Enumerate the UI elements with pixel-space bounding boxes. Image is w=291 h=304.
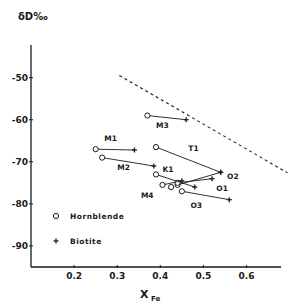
y-tick-label: -90 [12,241,28,251]
x-tick-label: 0.3 [109,271,125,281]
y-tick-label: -60 [12,115,28,125]
point-label: M1 [104,134,117,143]
hornblende-point [153,144,158,149]
reference-line-group [119,76,287,173]
legend-label: Biotite [70,237,102,246]
x-axis-label: X [140,288,149,301]
pair-unlabeled [168,184,173,189]
point-label: O1 [216,184,228,193]
point-label: M4 [141,191,154,200]
hornblende-point [160,182,165,187]
hornblende-point [93,147,98,152]
pair-m1: M1 [93,134,137,153]
tie-line [96,149,135,150]
tie-line [147,116,186,120]
x-tick-label: 0.6 [239,271,255,281]
hornblende-point [153,172,158,177]
point-label: T1 [188,144,198,153]
x-tick-label: 0.2 [66,271,82,281]
legend: HornblendeBiotite [53,212,124,246]
point-label: K1 [162,165,173,174]
hornblende-point [168,184,173,189]
x-tick-label: 0.4 [152,271,168,281]
pair-m2: M2 [100,155,157,172]
y-tick-label: -70 [12,157,28,167]
x-axis-label-subscript: Fe [151,295,160,303]
y-tick-label: -80 [12,199,28,209]
hornblende-point [145,113,150,118]
y-tick-label: -50 [12,73,28,83]
legend-label: Hornblende [70,212,124,221]
point-label: M2 [117,163,130,172]
pair-o2: O2 [175,170,239,188]
legend-hornblende-marker [53,213,58,218]
point-label: O2 [227,172,239,181]
data-pairs: M3M1M2T1K1O2O1M4O3 [93,113,239,210]
point-label: M3 [156,121,169,130]
point-label: O3 [190,201,202,210]
pair-m3: M3 [145,113,189,130]
hornblende-point [179,189,184,194]
chart-svg: -50-60-70-80-900.20.30.40.50.6 M3M1M2T1K… [0,0,291,304]
y-axis-label: δD‰ [18,11,48,22]
reference-dashed-line [119,76,287,173]
axes: -50-60-70-80-900.20.30.40.50.6 [12,45,281,281]
x-tick-label: 0.5 [195,271,211,281]
hornblende-point [100,155,105,160]
pair-m4: M4 [141,178,184,199]
